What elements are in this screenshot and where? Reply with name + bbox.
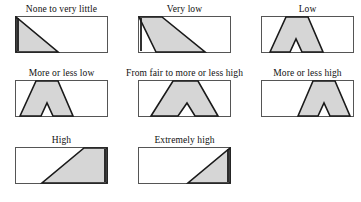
shape-more-or-less-high (298, 81, 350, 116)
shape-very-low (139, 17, 205, 52)
panel-label-low: Low (299, 3, 317, 16)
shape-high (42, 148, 107, 183)
panel-frame-high (15, 147, 108, 184)
fuzzy-membership-figure: None to very little Very low Low (0, 0, 361, 202)
panel-row-1: None to very little Very low Low (0, 3, 361, 53)
panel-cell-more-or-less-low: More or less low (15, 67, 108, 117)
panel-frame-none-to-very-little (15, 16, 108, 53)
panel-cell-from-fair-to-more-or-less-high: From fair to more or less high (138, 67, 231, 117)
shape-none-to-very-little (16, 17, 58, 52)
shape-from-fair-to-more-or-less-high (151, 81, 218, 116)
shape-extremely-high (188, 148, 230, 183)
panel-label-extremely-high: Extremely high (154, 134, 214, 147)
panel-cell-very-low: Very low (138, 3, 231, 53)
panel-label-more-or-less-high: More or less high (273, 67, 341, 80)
panel-cell-high: High (15, 134, 108, 184)
panel-label-from-fair-to-more-or-less-high: From fair to more or less high (126, 67, 243, 80)
panel-frame-more-or-less-high (261, 80, 354, 117)
shape-more-or-less-low (20, 81, 73, 116)
panel-frame-extremely-high (138, 147, 231, 184)
panel-row-3: High Extremely high (0, 134, 361, 184)
panel-cell-none-to-very-little: None to very little (15, 3, 108, 53)
panel-cell-more-or-less-high: More or less high (261, 67, 354, 117)
panel-frame-very-low (138, 16, 231, 53)
panel-frame-more-or-less-low (15, 80, 108, 117)
panel-label-more-or-less-low: More or less low (29, 67, 95, 80)
panel-label-none-to-very-little: None to very little (26, 3, 97, 16)
panel-label-very-low: Very low (167, 3, 202, 16)
panel-frame-low (261, 16, 354, 53)
panel-cell-extremely-high: Extremely high (138, 134, 231, 184)
panel-row-2: More or less low From fair to more or le… (0, 67, 361, 117)
panel-cell-low: Low (261, 3, 354, 53)
shape-low (270, 17, 323, 52)
panel-frame-from-fair-to-more-or-less-high (138, 80, 231, 117)
panel-label-high: High (52, 134, 71, 147)
